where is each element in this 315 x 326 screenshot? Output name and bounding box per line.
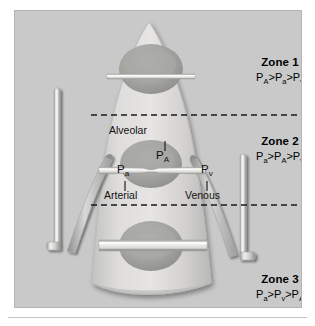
zone1-alveolus-capillary: [107, 44, 195, 94]
alveolar-pressure-symbol: PA: [156, 149, 169, 161]
zone-1-eq-term-3: Pv: [293, 71, 302, 83]
lung-zones-figure: Alveolar PA Pa Pv Arterial Venous Zone 1…: [0, 0, 315, 326]
arterial-pressure-symbol: Pa: [117, 163, 129, 175]
zone-3-eq-term-2: Pv: [274, 288, 285, 300]
zone-2-eq-sub-3: v: [300, 156, 302, 165]
zone-3-equation: Pa>Pv>PA: [243, 288, 302, 300]
alveolar-label: Alveolar: [109, 125, 147, 136]
zone-3-eq-term-1: Pa: [256, 288, 268, 300]
alveolar-pressure-base: P: [156, 149, 164, 161]
zone-3-eq-sub-3: A: [299, 294, 302, 303]
zone-1-eq-sub-2: a: [282, 77, 286, 86]
zone-2-eq-sub-2: A: [281, 156, 286, 165]
zone-3-eq-sub-2: v: [281, 294, 285, 303]
zone-3-legend: Zone 3 Pa>Pv>PA: [243, 273, 302, 300]
zone-3-title: Zone 3: [243, 273, 302, 285]
zone-2-eq-sub-1: a: [263, 156, 267, 165]
venous-label: Venous: [185, 190, 220, 201]
zone-1-eq-term-1: PA: [256, 71, 268, 83]
venous-pressure-symbol: Pv: [201, 163, 213, 175]
zone-3-eq-op-2: >: [285, 288, 291, 300]
zone-1-legend: Zone 1 PA>Pa>Pv: [243, 56, 302, 83]
venous-pressure-standpipe: [240, 154, 256, 260]
zone-1-equation: PA>Pa>Pv: [243, 71, 302, 83]
zone-2-equation: Pa>PA>Pv: [243, 150, 302, 162]
zone-2-eq-term-1: Pa: [256, 150, 268, 162]
bottom-separator-rule: [8, 317, 307, 318]
diagram-panel: Alveolar PA Pa Pv Arterial Venous Zone 1…: [14, 10, 302, 308]
zone-2-eq-term-2: PA: [274, 150, 286, 162]
arterial-pressure-base: P: [117, 163, 125, 175]
zone-1-eq-op-1: >: [268, 71, 274, 83]
venous-pressure-base: P: [201, 163, 209, 175]
zone-1-eq-op-2: >: [286, 71, 292, 83]
zone-3-eq-sub-1: a: [263, 294, 267, 303]
zone-1-eq-sub-1: A: [263, 77, 268, 86]
zone-2-eq-term-3: Pv: [293, 150, 302, 162]
zone-1-eq-term-2: Pa: [275, 71, 287, 83]
arterial-label: Arterial: [104, 190, 137, 201]
zone-2-title: Zone 2: [243, 135, 302, 147]
zone-2-eq-op-2: >: [286, 150, 292, 162]
arterial-pressure-sub: a: [125, 169, 129, 178]
alveolar-pressure-sub: A: [164, 155, 169, 164]
arterial-pressure-standpipe: [47, 88, 61, 250]
zone-1-eq-sub-3: v: [300, 77, 302, 86]
zone-3-eq-term-3: PA: [292, 288, 302, 300]
zone-1-title: Zone 1: [243, 56, 302, 68]
venous-pressure-sub: v: [209, 169, 213, 178]
zone-2-legend: Zone 2 Pa>PA>Pv: [243, 135, 302, 162]
